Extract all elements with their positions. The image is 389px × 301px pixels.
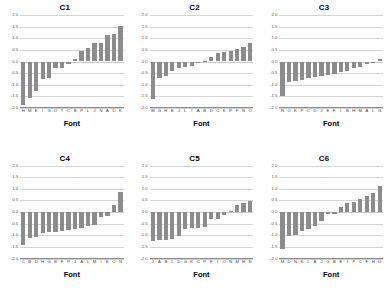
y-axis-tick-label: 1.0 bbox=[142, 187, 148, 191]
bar bbox=[53, 62, 57, 69]
y-axis-tick-label: -0.5 bbox=[11, 71, 18, 75]
bar bbox=[196, 212, 200, 228]
y-axis-tick-label: -2.0 bbox=[11, 106, 18, 110]
x-axis-tick-label: I bbox=[42, 109, 43, 113]
y-axis-tick-label: -1.0 bbox=[11, 83, 18, 87]
bar bbox=[332, 62, 336, 74]
y-axis-tick-label: 2.0 bbox=[272, 163, 278, 167]
bar bbox=[86, 48, 90, 62]
bar bbox=[300, 62, 304, 80]
bar-series bbox=[20, 15, 124, 108]
chart-panel-c6: C62.01.51.00.50.0-0.5-1.0-1.5-2.0MDNKLAJ… bbox=[259, 151, 389, 301]
bar bbox=[41, 62, 45, 79]
x-axis-tick-label: J bbox=[320, 109, 322, 113]
bar bbox=[345, 62, 349, 71]
y-axis-tick-label: 1.0 bbox=[272, 187, 278, 191]
y-axis-tick-label: -0.5 bbox=[270, 222, 277, 226]
panel-title: C2 bbox=[130, 0, 260, 15]
y-axis-tick-label: -1.5 bbox=[140, 245, 147, 249]
x-axis-tick-label: J bbox=[320, 260, 322, 264]
plot-canvas: 2.01.51.00.50.0-0.5-1.0-1.5-2.0 bbox=[150, 166, 254, 259]
y-axis-tick-label: 1.0 bbox=[12, 36, 18, 40]
x-axis-title: Font bbox=[20, 117, 124, 128]
x-axis-tick-label: L bbox=[87, 109, 89, 113]
bar bbox=[352, 62, 356, 69]
y-axis-tick-label: -2.0 bbox=[270, 106, 277, 110]
bar bbox=[222, 212, 226, 215]
x-axis-tick-label: H bbox=[41, 260, 44, 264]
x-axis-tick-label: G bbox=[184, 260, 187, 264]
bar bbox=[28, 62, 32, 98]
x-axis-tick-label: O bbox=[378, 260, 381, 264]
bar bbox=[79, 212, 83, 228]
panel-title: C6 bbox=[259, 151, 389, 166]
bar-series bbox=[150, 15, 254, 108]
bar bbox=[21, 212, 25, 245]
x-axis-tick-label: I bbox=[340, 109, 341, 113]
bar bbox=[190, 62, 194, 67]
y-axis-tick-label: -1.0 bbox=[11, 233, 18, 237]
x-axis-title: Font bbox=[279, 268, 383, 279]
x-axis-tick-label: O bbox=[287, 109, 290, 113]
bar bbox=[73, 212, 77, 229]
x-axis-tick-label: A bbox=[197, 109, 200, 113]
bar bbox=[177, 212, 181, 236]
plot-area: 2.01.51.00.50.0-0.5-1.0-1.5-2.0 bbox=[20, 15, 124, 108]
y-axis-tick-label: -1.5 bbox=[270, 94, 277, 98]
bar bbox=[241, 203, 245, 212]
x-axis-tick-label: M bbox=[151, 109, 155, 113]
x-axis-tick-label: N bbox=[242, 109, 245, 113]
bar bbox=[60, 212, 64, 231]
bar bbox=[47, 212, 51, 232]
y-axis-tick-label: -0.5 bbox=[140, 222, 147, 226]
x-axis-tick-label: C bbox=[197, 260, 200, 264]
x-axis-tick-label: H bbox=[372, 260, 375, 264]
bar bbox=[300, 212, 304, 231]
y-axis-tick-label: -1.5 bbox=[11, 94, 18, 98]
bar bbox=[105, 35, 109, 62]
x-axis-tick-label: G bbox=[326, 260, 329, 264]
y-axis-tick-label: 2.0 bbox=[12, 13, 18, 17]
x-axis-tick-label: M bbox=[235, 260, 239, 264]
bar bbox=[47, 62, 51, 79]
bar bbox=[378, 59, 382, 62]
y-axis-tick-label: 0.0 bbox=[142, 210, 148, 214]
x-axis-tick-label: A bbox=[80, 260, 83, 264]
x-axis-tick-label: H bbox=[22, 109, 25, 113]
chart-panel-c4: C42.01.51.00.50.0-0.5-1.0-1.5-2.0CBDHGEF… bbox=[0, 151, 130, 301]
x-axis-tick-label: K bbox=[190, 260, 193, 264]
x-axis-ticks: MDNKLAJGBEIPCFHO bbox=[279, 259, 383, 268]
bar bbox=[319, 212, 323, 221]
x-axis-tick-label: J bbox=[152, 260, 154, 264]
bar bbox=[235, 205, 239, 212]
bar bbox=[378, 186, 382, 212]
bar bbox=[41, 212, 45, 233]
bar bbox=[53, 212, 57, 232]
bar bbox=[358, 199, 362, 212]
bar bbox=[326, 212, 330, 214]
bar bbox=[216, 53, 220, 61]
x-axis-tick-label: H bbox=[352, 109, 355, 113]
x-axis-tick-label: D bbox=[288, 260, 291, 264]
x-axis-title: Font bbox=[279, 117, 383, 128]
x-axis-tick-label: G bbox=[378, 109, 381, 113]
x-axis-tick-label: A bbox=[365, 109, 368, 113]
bar bbox=[99, 212, 103, 217]
chart-panel-c5: C52.01.51.00.50.0-0.5-1.0-1.5-2.0JABLDGK… bbox=[130, 151, 260, 301]
x-axis-tick-label: T bbox=[61, 109, 64, 113]
y-axis-tick-label: 1.0 bbox=[272, 36, 278, 40]
x-axis-tick-label: J bbox=[74, 260, 76, 264]
bar bbox=[66, 62, 70, 64]
x-axis-tick-label: L bbox=[171, 260, 173, 264]
plot-canvas: 2.01.51.00.50.0-0.5-1.0-1.5-2.0 bbox=[20, 166, 124, 259]
y-axis-tick-label: 0.0 bbox=[12, 210, 18, 214]
y-axis-tick-label: 2.0 bbox=[142, 163, 148, 167]
x-axis-tick-label: D bbox=[313, 109, 316, 113]
plot-area: 2.01.51.00.50.0-0.5-1.0-1.5-2.0 bbox=[279, 15, 383, 108]
bar bbox=[86, 212, 90, 226]
y-axis-tick-label: -1.0 bbox=[270, 83, 277, 87]
x-axis-tick-label: N bbox=[99, 109, 102, 113]
bar bbox=[371, 62, 375, 63]
bar bbox=[222, 52, 226, 61]
x-axis-tick-label: D bbox=[210, 109, 213, 113]
